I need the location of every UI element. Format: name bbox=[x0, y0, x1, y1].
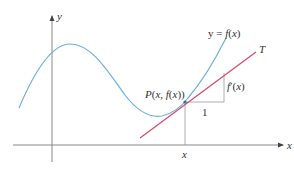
rise-label: f′(x) bbox=[227, 80, 245, 93]
tangent-diagram: y x y = f(x) T P(x, f(x)) f′(x) 1 x bbox=[0, 0, 294, 169]
slope-triangle bbox=[185, 73, 224, 102]
function-curve bbox=[19, 38, 226, 116]
point-p bbox=[183, 100, 186, 103]
x-tick-label: x bbox=[181, 148, 187, 160]
point-label: P(x, f(x)) bbox=[144, 88, 185, 101]
tangent-label: T bbox=[259, 43, 266, 55]
x-axis-label: x bbox=[286, 139, 292, 151]
run-label: 1 bbox=[202, 106, 208, 118]
curve-label: y = f(x) bbox=[208, 27, 241, 40]
y-axis-label: y bbox=[56, 10, 62, 22]
